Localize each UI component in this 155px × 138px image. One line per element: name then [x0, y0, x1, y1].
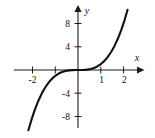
- y-tick-label-neg8: -8: [62, 112, 70, 122]
- x-axis-arrow-icon: [137, 66, 145, 73]
- x-tick-label-2: 2: [122, 75, 127, 85]
- y-tick-label-8: 8: [65, 19, 70, 29]
- x-tick-label-1: 1: [99, 75, 104, 85]
- y-axis-label: y: [84, 5, 90, 16]
- x-axis-label: x: [134, 52, 140, 63]
- cubic-function-graph: -2 1 2 8 4 -4 -8 x y: [0, 0, 155, 138]
- y-tick-label-neg4: -4: [62, 89, 70, 99]
- x-tick-label-neg2: -2: [29, 75, 37, 85]
- plot-area: -2 1 2 8 4 -4 -8 x y: [0, 0, 155, 138]
- y-tick-label-4: 4: [65, 42, 70, 52]
- y-axis-arrow-icon: [74, 5, 81, 12]
